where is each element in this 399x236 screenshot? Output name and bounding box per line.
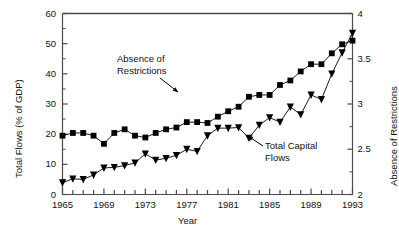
x-ticklabel: 1981 [211, 199, 245, 210]
data-point-marker [256, 92, 262, 98]
data-point-marker [194, 148, 201, 155]
arrow-total-capital-flows [248, 136, 263, 146]
data-point-marker [111, 130, 117, 136]
data-point-marker [132, 133, 138, 139]
data-point-marker [163, 126, 169, 132]
x-ticklabel: 1973 [128, 199, 162, 210]
data-point-marker [142, 150, 149, 157]
y-ticklabel-right: 3 [358, 98, 363, 109]
data-point-marker [122, 126, 128, 132]
data-point-marker [298, 69, 304, 75]
data-point-marker [142, 135, 148, 141]
arrow-absence-of-restrictions [160, 78, 178, 92]
y-ticklabel-right: 2.5 [358, 143, 371, 154]
annotation-total-capital-flows: Total Capital Flows [265, 140, 317, 163]
data-point-marker [80, 130, 86, 136]
x-ticklabel: 1989 [294, 199, 328, 210]
y-ticklabel-left: 40 [0, 68, 56, 79]
data-point-marker [101, 141, 107, 147]
data-point-marker [153, 130, 159, 136]
data-point-marker [205, 120, 211, 126]
data-point-marker [70, 130, 76, 136]
x-axis-label: Year [178, 215, 197, 226]
x-ticklabel: 1965 [46, 199, 80, 210]
annotation-line-2: Flows [265, 152, 317, 164]
data-point-marker [319, 61, 325, 67]
x-ticklabel: 1993 [336, 199, 370, 210]
data-point-marker [307, 92, 314, 99]
data-point-marker [318, 96, 325, 103]
x-ticklabel: 1985 [253, 199, 287, 210]
data-point-marker [350, 38, 356, 44]
data-series [59, 30, 356, 187]
data-point-marker [59, 179, 66, 186]
annotation-line-1: Total Capital [265, 140, 317, 152]
data-point-marker [91, 133, 97, 139]
annotation-absence-of-restrictions: Absence of Restrictions [117, 53, 167, 76]
data-point-marker [152, 157, 159, 164]
data-point-marker [174, 125, 180, 131]
data-point-marker [297, 111, 304, 118]
data-point-marker [287, 78, 293, 84]
data-point-marker [246, 94, 252, 100]
data-point-marker [236, 104, 242, 110]
data-point-marker [267, 92, 273, 98]
data-point-marker [329, 50, 335, 56]
y-ticklabel-left: 60 [0, 8, 56, 19]
annotation-line-1: Absence of [117, 53, 167, 65]
data-point-marker [204, 132, 211, 139]
data-point-marker [215, 114, 221, 120]
data-point-marker [194, 119, 200, 125]
data-point-marker [328, 70, 335, 77]
y-ticklabel-left: 50 [0, 38, 56, 49]
data-point-marker [276, 119, 283, 126]
data-point-marker [225, 108, 231, 114]
annotation-line-2: Restrictions [117, 65, 167, 77]
data-point-marker [339, 41, 345, 47]
x-ticklabel: 1969 [87, 199, 121, 210]
y-ticklabel-right: 3.5 [358, 53, 371, 64]
y-ticklabel-left: 20 [0, 128, 56, 139]
data-point-marker [308, 61, 314, 67]
y-axis-label-right: Absence of Restrictions [388, 86, 399, 186]
y-ticklabel-left: 30 [0, 98, 56, 109]
x-ticklabel: 1977 [170, 199, 204, 210]
y-ticklabel-left: 10 [0, 158, 56, 169]
data-point-marker [277, 82, 283, 88]
data-point-marker [60, 133, 66, 139]
data-point-marker [90, 171, 97, 178]
data-point-marker [184, 119, 190, 125]
data-point-marker [339, 49, 346, 56]
data-point-marker [266, 114, 273, 121]
y-ticklabel-right: 4 [358, 8, 363, 19]
